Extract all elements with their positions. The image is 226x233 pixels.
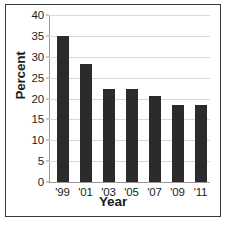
y-tick-mark [46,98,49,99]
y-tick-mark [46,15,49,16]
chart-figure-frame: Percent Year 0510152025303540 '99'01'03'… [5,4,221,217]
bar-chart: Percent Year 0510152025303540 '99'01'03'… [6,5,220,216]
x-tick-label: '01 [78,186,92,198]
y-tick-label: 10 [32,134,44,146]
y-tick-mark [46,140,49,141]
y-tick-label: 35 [32,30,44,42]
y-tick-mark [46,56,49,57]
gridline [49,36,210,37]
x-tick-label: '03 [101,186,115,198]
bar [126,89,138,182]
x-axis-baseline [49,182,210,183]
x-tick-label: '09 [170,186,184,198]
gridline [49,57,210,58]
y-tick-label: 25 [32,72,44,84]
y-tick-mark [46,182,49,183]
x-tick-label: '11 [194,186,208,198]
x-tick-label: '05 [124,186,138,198]
x-tick-label: '07 [147,186,161,198]
bar [57,36,69,182]
bar [149,96,161,182]
y-tick-mark [46,77,49,78]
y-tick-mark [46,35,49,36]
y-tick-label: 5 [38,155,44,167]
y-tick-label: 30 [32,51,44,63]
bar [195,105,207,182]
gridline [49,78,210,79]
y-tick-label: 20 [32,93,44,105]
y-tick-mark [46,161,49,162]
bar [172,105,184,182]
y-axis-title: Percent [13,26,28,126]
gridline [49,15,210,16]
caption-sliver [6,227,220,233]
y-tick-mark [46,119,49,120]
y-tick-label: 0 [38,176,44,188]
x-tick-label: '99 [55,186,69,198]
plot-area: 0510152025303540 '99'01'03'05'07'09'11 [49,15,210,182]
bar [80,64,92,182]
y-tick-label: 15 [32,113,44,125]
y-tick-label: 40 [32,9,44,21]
bar [103,89,115,182]
